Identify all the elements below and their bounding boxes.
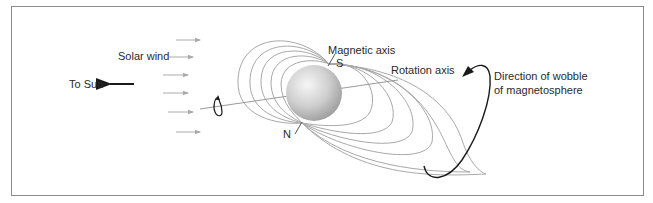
south-pole-label: S [336,57,343,70]
planet-sphere [286,65,342,121]
wobble-label-line2: of magnetosphere [494,84,583,97]
north-pole-label: N [283,128,291,141]
field-lines [238,41,486,175]
to-sun-label: To Sun [69,78,103,91]
solar-wind-label: Solar wind [118,50,169,63]
rotation-axis-label: Rotation axis [391,64,455,77]
magnetic-axis-label: Magnetic axis [328,44,395,57]
wobble-label-line1: Direction of wobble [494,70,588,83]
magnetosphere-diagram [0,0,653,203]
